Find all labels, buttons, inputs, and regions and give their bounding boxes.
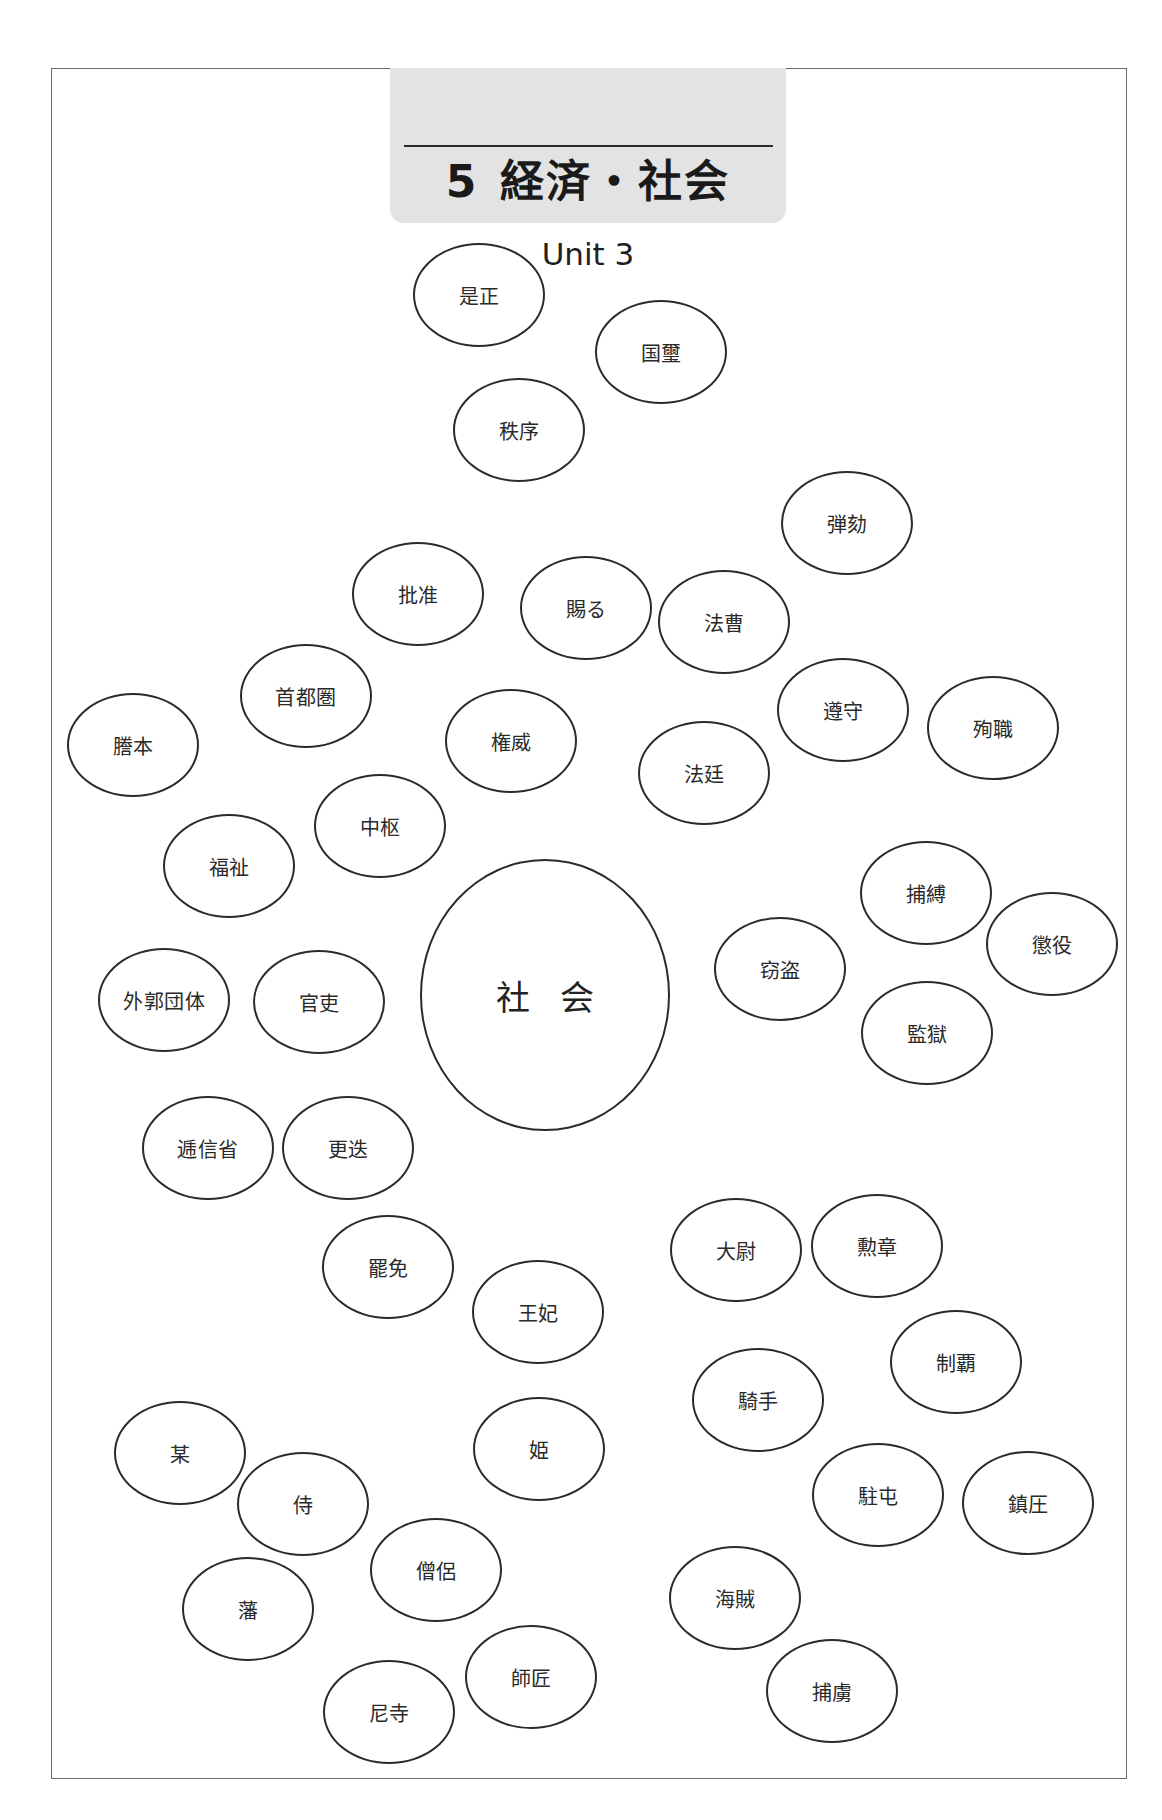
word-label: 某 xyxy=(170,1439,191,1468)
word-label: 中枢 xyxy=(360,812,401,841)
word-bubble[interactable]: 批准 xyxy=(352,542,484,646)
word-label: 殉職 xyxy=(973,714,1014,743)
word-bubble[interactable]: 更迭 xyxy=(282,1096,414,1200)
word-label: 窃盗 xyxy=(760,955,801,984)
word-label: 批准 xyxy=(398,580,439,609)
word-label: 捕虜 xyxy=(812,1677,853,1706)
word-bubble[interactable]: 賜る xyxy=(520,556,652,660)
center-topic-label: 社 会 xyxy=(496,971,605,1020)
word-bubble[interactable]: 監獄 xyxy=(861,981,993,1085)
word-bubble[interactable]: 殉職 xyxy=(927,676,1059,780)
word-label: 制覇 xyxy=(936,1348,977,1377)
word-label: 騎手 xyxy=(738,1386,779,1415)
word-bubble[interactable]: 姫 xyxy=(473,1397,605,1501)
word-bubble[interactable]: 懲役 xyxy=(986,892,1118,996)
word-label: 勲章 xyxy=(857,1232,898,1261)
word-bubble[interactable]: 権威 xyxy=(445,689,577,793)
word-bubble[interactable]: 福祉 xyxy=(163,814,295,918)
word-label: 権威 xyxy=(491,727,532,756)
word-bubble[interactable]: 制覇 xyxy=(890,1310,1022,1414)
word-bubble[interactable]: 某 xyxy=(114,1401,246,1505)
word-label: 懲役 xyxy=(1032,930,1073,959)
word-label: 法曹 xyxy=(704,608,745,637)
word-bubble[interactable]: 藩 xyxy=(182,1557,314,1661)
word-bubble[interactable]: 遵守 xyxy=(777,658,909,762)
word-bubble[interactable]: 僧侶 xyxy=(370,1518,502,1622)
word-label: 遵守 xyxy=(823,696,864,725)
word-label: 大尉 xyxy=(716,1236,757,1265)
word-bubble[interactable]: 捕虜 xyxy=(766,1639,898,1743)
word-bubble[interactable]: 謄本 xyxy=(67,693,199,797)
word-label: 尼寺 xyxy=(369,1698,410,1727)
word-label: 官吏 xyxy=(299,988,340,1017)
word-label: 鎮圧 xyxy=(1008,1489,1049,1518)
word-label: 謄本 xyxy=(113,731,154,760)
word-label: 国璽 xyxy=(641,338,682,367)
word-bubble[interactable]: 国璽 xyxy=(595,300,727,404)
word-bubble[interactable]: 逓信省 xyxy=(142,1096,274,1200)
word-bubble[interactable]: 騎手 xyxy=(692,1348,824,1452)
chapter-number: 5 xyxy=(446,156,479,207)
word-label: 賜る xyxy=(566,594,607,623)
word-label: 更迭 xyxy=(328,1134,369,1163)
word-label: 弾劾 xyxy=(827,509,868,538)
word-bubble[interactable]: 外郭団体 xyxy=(98,948,230,1052)
word-label: 師匠 xyxy=(511,1663,552,1692)
word-label: 是正 xyxy=(459,281,500,310)
word-bubble[interactable]: 窃盗 xyxy=(714,917,846,1021)
word-bubble[interactable]: 弾劾 xyxy=(781,471,913,575)
word-bubble[interactable]: 尼寺 xyxy=(323,1660,455,1764)
word-label: 王妃 xyxy=(518,1298,559,1327)
word-label: 監獄 xyxy=(907,1019,948,1048)
word-label: 法廷 xyxy=(684,759,725,788)
word-bubble[interactable]: 捕縛 xyxy=(860,841,992,945)
word-label: 駐屯 xyxy=(858,1481,899,1510)
word-label: 姫 xyxy=(529,1435,550,1464)
word-label: 侍 xyxy=(293,1490,314,1519)
word-bubble[interactable]: 大尉 xyxy=(670,1198,802,1302)
word-label: 罷免 xyxy=(368,1253,409,1282)
word-bubble[interactable]: 勲章 xyxy=(811,1194,943,1298)
word-label: 海賊 xyxy=(715,1584,756,1613)
word-label: 秩序 xyxy=(499,416,540,445)
word-bubble[interactable]: 罷免 xyxy=(322,1215,454,1319)
word-label: 福祉 xyxy=(209,852,250,881)
word-bubble[interactable]: 駐屯 xyxy=(812,1443,944,1547)
word-label: 藩 xyxy=(238,1595,259,1624)
header-divider xyxy=(404,145,773,147)
word-label: 首都圏 xyxy=(275,682,337,711)
word-bubble[interactable]: 侍 xyxy=(237,1452,369,1556)
word-bubble[interactable]: 官吏 xyxy=(253,950,385,1054)
word-bubble[interactable]: 法曹 xyxy=(658,570,790,674)
word-bubble[interactable]: 海賊 xyxy=(669,1546,801,1650)
word-bubble[interactable]: 王妃 xyxy=(472,1260,604,1364)
word-bubble[interactable]: 秩序 xyxy=(453,378,585,482)
word-bubble[interactable]: 鎮圧 xyxy=(962,1451,1094,1555)
word-label: 捕縛 xyxy=(906,879,947,908)
word-bubble[interactable]: 首都圏 xyxy=(240,644,372,748)
center-topic-bubble[interactable]: 社 会 xyxy=(420,859,670,1131)
word-bubble[interactable]: 師匠 xyxy=(465,1625,597,1729)
chapter-title-text: 経済・社会 xyxy=(500,156,730,207)
chapter-title: 5経済・社会 xyxy=(390,154,786,210)
word-label: 逓信省 xyxy=(177,1134,239,1163)
word-bubble[interactable]: 法廷 xyxy=(638,721,770,825)
word-label: 外郭団体 xyxy=(123,986,205,1015)
word-bubble[interactable]: 中枢 xyxy=(314,774,446,878)
word-bubble[interactable]: 是正 xyxy=(413,243,545,347)
word-label: 僧侶 xyxy=(416,1556,457,1585)
